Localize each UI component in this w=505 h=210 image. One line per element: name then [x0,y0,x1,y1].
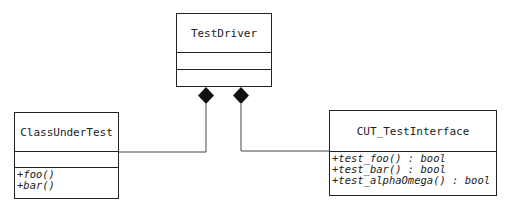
class-cut-testinterface[interactable]: CUT_TestInterface +test_foo() : bool +te… [329,110,497,196]
composition-line-classundertest [118,104,206,152]
composition-line-cut-testinterface [241,104,329,151]
class-classundertest[interactable]: ClassUnderTest +foo() +bar() [14,112,119,199]
attributes-compartment [15,152,118,168]
composition-diamond-icon [233,87,249,104]
operations-compartment: +foo() +bar() [15,168,118,191]
operations-compartment: +test_foo() : bool +test_bar() : bool +t… [330,152,496,186]
class-testdriver[interactable]: TestDriver [176,13,272,87]
composition-diamond-icon [198,87,214,104]
class-name: ClassUnderTest [15,113,118,152]
class-name: TestDriver [177,14,271,53]
class-name: CUT_TestInterface [330,111,496,152]
operations-compartment [177,70,271,86]
operation: +test_alphaOmega() : bool [330,175,496,186]
operation: +bar() [15,180,118,191]
attributes-compartment [177,53,271,70]
